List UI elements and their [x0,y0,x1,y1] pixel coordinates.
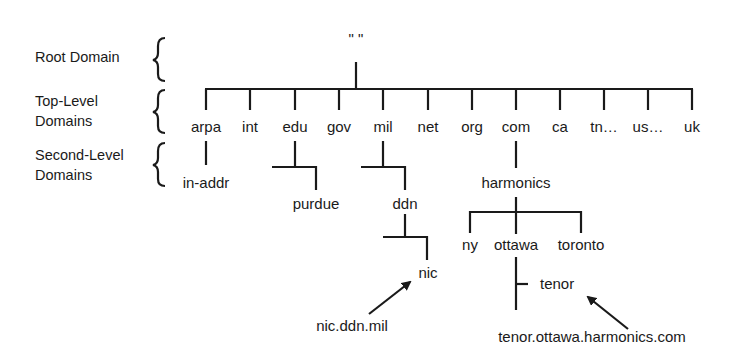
sld-in-addr: in-addr [183,174,230,191]
tld-org: org [461,118,483,135]
label-second-level-line1: Second-Level [35,147,124,163]
tld-gov: gov [327,118,352,135]
label-second-level-line2: Domains [35,167,92,183]
fqdn-nic: nic.ddn.mil [316,317,388,334]
node-toronto: toronto [558,236,605,253]
brace-icon-sld [153,143,165,186]
tld-int: int [242,118,259,135]
tld-tn: tn… [590,118,618,135]
root-node-label: " " [349,30,364,47]
node-nic: nic [418,264,438,281]
tld-ticks [206,89,692,110]
arrow-icon-tenor [588,297,628,329]
tld-edu: edu [282,118,307,135]
fqdn-tenor: tenor.ottawa.harmonics.com [498,328,686,345]
sld-harmonics: harmonics [481,174,550,191]
node-ny: ny [462,236,478,253]
sld-ddn: ddn [392,195,417,212]
label-top-level-line2: Domains [35,113,92,129]
tld-com: com [502,118,530,135]
tld-ca: ca [552,118,569,135]
sld-purdue: purdue [293,195,340,212]
arrow-icon-nic [369,282,410,314]
brace-icon-tld [153,90,165,133]
node-ottawa: ottawa [494,236,539,253]
label-root-domain: Root Domain [35,49,120,65]
tld-uk: uk [684,118,700,135]
tld-mil: mil [373,118,392,135]
label-top-level-line1: Top-Level [35,93,98,109]
tld-net: net [418,118,440,135]
dns-hierarchy-diagram: Root Domain Top-Level Domains Second-Lev… [0,0,746,351]
tld-us: us… [633,118,664,135]
tld-arpa: arpa [191,118,222,135]
brace-icon-root [153,38,165,81]
node-tenor: tenor [540,275,574,292]
